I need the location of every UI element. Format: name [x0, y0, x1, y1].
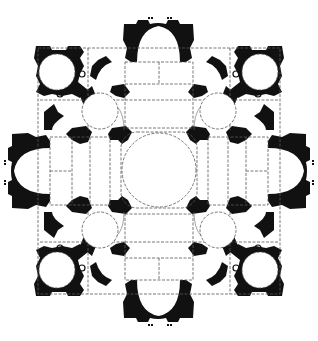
west-apse-wall	[8, 133, 50, 209]
central-dome	[121, 132, 197, 208]
south-apse-wall	[123, 280, 194, 322]
north-apse-wall	[123, 20, 194, 62]
floor-plan	[0, 0, 318, 341]
east-apse-wall	[268, 133, 310, 209]
